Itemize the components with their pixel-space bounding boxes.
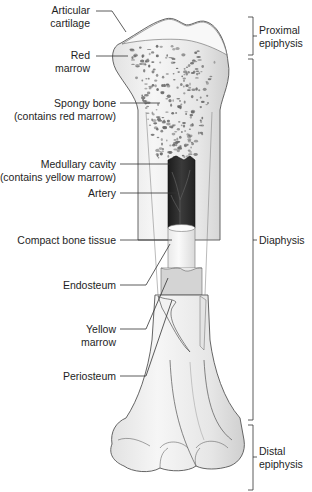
label-proximal-epiphysis: Proximal epiphysis — [259, 24, 303, 49]
label-endosteum: Endosteum — [63, 279, 116, 292]
label-line: (contains yellow marrow) — [0, 171, 116, 184]
region-brackets — [248, 17, 257, 490]
label-red-marrow: Red marrow — [55, 49, 90, 74]
label-line: Articular — [50, 4, 90, 17]
label-line: Compact bone tissue — [17, 234, 116, 247]
label-line: epiphysis — [259, 458, 303, 471]
label-line: Spongy bone — [14, 97, 116, 110]
label-line: Periosteum — [63, 370, 116, 383]
label-distal-epiphysis: Distal epiphysis — [259, 445, 303, 470]
label-line: marrow — [55, 62, 90, 75]
label-line: Diaphysis — [259, 234, 305, 247]
label-yellow-marrow: Yellow marrow — [81, 323, 116, 348]
label-medullary-cavity: Medullary cavity (contains yellow marrow… — [0, 158, 116, 183]
label-line: Medullary cavity — [0, 158, 116, 171]
label-articular-cartilage: Articular cartilage — [50, 4, 90, 29]
label-line: Red — [55, 49, 90, 62]
label-line: cartilage — [50, 17, 90, 30]
label-periosteum: Periosteum — [63, 370, 116, 383]
label-line: Yellow — [81, 323, 116, 336]
bone-lower — [111, 295, 245, 472]
label-compact-bone-tissue: Compact bone tissue — [17, 234, 116, 247]
medullary-cavity-shape — [168, 156, 195, 228]
label-line: Distal — [259, 445, 303, 458]
label-line: Proximal — [259, 24, 303, 37]
label-artery: Artery — [88, 187, 116, 200]
label-line: epiphysis — [259, 37, 303, 50]
label-line: Artery — [88, 187, 116, 200]
label-spongy-bone: Spongy bone (contains red marrow) — [14, 97, 116, 122]
label-line: (contains red marrow) — [14, 110, 116, 123]
label-diaphysis: Diaphysis — [259, 234, 305, 247]
label-line: Endosteum — [63, 279, 116, 292]
label-line: marrow — [81, 336, 116, 349]
